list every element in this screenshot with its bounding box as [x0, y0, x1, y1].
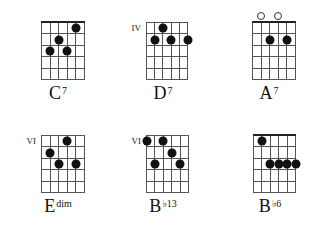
- chord-name: Edim: [8, 197, 108, 215]
- chord-suffix: 7: [62, 85, 67, 96]
- fret-line: [253, 192, 296, 193]
- position-label: VI: [121, 136, 141, 146]
- fret-line: [41, 56, 85, 57]
- open-string-icon: [274, 12, 282, 20]
- string-line: [58, 22, 59, 80]
- finger-dot: [46, 148, 55, 157]
- string-line: [252, 22, 253, 80]
- chord-diagram-bb6: B♭6: [220, 113, 316, 223]
- fret-line: [146, 192, 189, 193]
- finger-dot: [150, 160, 159, 169]
- fret-line: [41, 135, 85, 136]
- string-line: [84, 22, 85, 80]
- finger-dot: [142, 137, 151, 146]
- fret-line: [41, 45, 85, 46]
- chord-root: C: [49, 83, 61, 103]
- nut-bar: [252, 21, 296, 23]
- string-line: [179, 22, 180, 80]
- finger-dot: [167, 35, 176, 44]
- chord-name: A7: [219, 84, 316, 102]
- finger-dot: [257, 137, 266, 146]
- finger-dot: [282, 35, 291, 44]
- finger-dot: [167, 148, 176, 157]
- fret-line: [146, 169, 189, 170]
- string-line: [188, 135, 189, 193]
- fret-line: [146, 56, 188, 57]
- string-line: [295, 22, 296, 80]
- chord-root: B: [259, 196, 271, 216]
- fretboard-grid: [146, 22, 187, 79]
- fret-line: [41, 68, 85, 69]
- fretboard-grid: [253, 135, 295, 192]
- string-line: [84, 135, 85, 193]
- string-line: [269, 22, 270, 80]
- finger-dot: [54, 160, 63, 169]
- finger-dot: [265, 35, 274, 44]
- fret-line: [41, 146, 85, 147]
- nut-bar: [253, 134, 296, 136]
- fret-line: [146, 45, 188, 46]
- fret-line: [252, 68, 296, 69]
- chord-suffix: ♭6: [272, 198, 282, 209]
- string-line: [146, 22, 147, 80]
- chord-name: C7: [8, 84, 108, 102]
- finger-dot: [71, 160, 80, 169]
- finger-dot: [71, 24, 80, 33]
- chord-diagram-c7: C7: [8, 0, 108, 110]
- finger-dot: [63, 137, 72, 146]
- fret-line: [253, 181, 296, 182]
- fret-line: [41, 158, 85, 159]
- fret-line: [146, 79, 188, 80]
- position-label: IV: [121, 23, 141, 33]
- string-line: [41, 22, 42, 80]
- fret-line: [253, 158, 296, 159]
- chord-diagram-a7: A7: [219, 0, 316, 110]
- fret-line: [253, 169, 296, 170]
- fret-line: [146, 181, 189, 182]
- fret-line: [146, 68, 188, 69]
- finger-dot: [176, 160, 185, 169]
- finger-dot: [159, 137, 168, 146]
- fret-line: [146, 158, 189, 159]
- fretboard-grid: [252, 22, 295, 79]
- string-line: [261, 22, 262, 80]
- chord-name: D7: [113, 84, 213, 102]
- chord-root: B: [149, 196, 161, 216]
- chord-suffix: 7: [168, 85, 173, 96]
- string-line: [171, 22, 172, 80]
- string-line: [50, 135, 51, 193]
- fret-line: [252, 45, 296, 46]
- fret-line: [146, 33, 188, 34]
- fretboard-grid: [41, 135, 84, 192]
- fret-line: [41, 79, 85, 80]
- chord-root: E: [44, 196, 55, 216]
- fret-line: [146, 22, 188, 23]
- chord-diagram-edim: VI Edim: [8, 113, 108, 223]
- string-line: [171, 135, 172, 193]
- fret-line: [252, 79, 296, 80]
- finger-dot: [291, 160, 300, 169]
- chord-suffix: 7: [274, 85, 279, 96]
- finger-dot: [150, 35, 159, 44]
- chord-suffix: dim: [56, 198, 72, 209]
- fretboard-grid: [146, 135, 188, 192]
- chord-suffix: ♭13: [162, 198, 177, 209]
- fret-line: [252, 56, 296, 57]
- fretboard-grid: [41, 22, 84, 79]
- chord-name: B♭6: [220, 197, 316, 215]
- fret-line: [146, 146, 189, 147]
- fret-line: [41, 169, 85, 170]
- finger-dot: [158, 24, 167, 33]
- string-line: [286, 22, 287, 80]
- finger-dot: [46, 47, 55, 56]
- fret-line: [252, 33, 296, 34]
- finger-dot: [183, 35, 192, 44]
- string-line: [253, 135, 254, 193]
- fret-line: [146, 135, 189, 136]
- chord-diagram-d7: IV D7: [113, 0, 213, 110]
- position-label: VI: [16, 136, 36, 146]
- string-line: [154, 22, 155, 80]
- nut-bar: [41, 21, 85, 23]
- chord-diagram-bb13: VI B♭13: [113, 113, 213, 223]
- fret-line: [41, 181, 85, 182]
